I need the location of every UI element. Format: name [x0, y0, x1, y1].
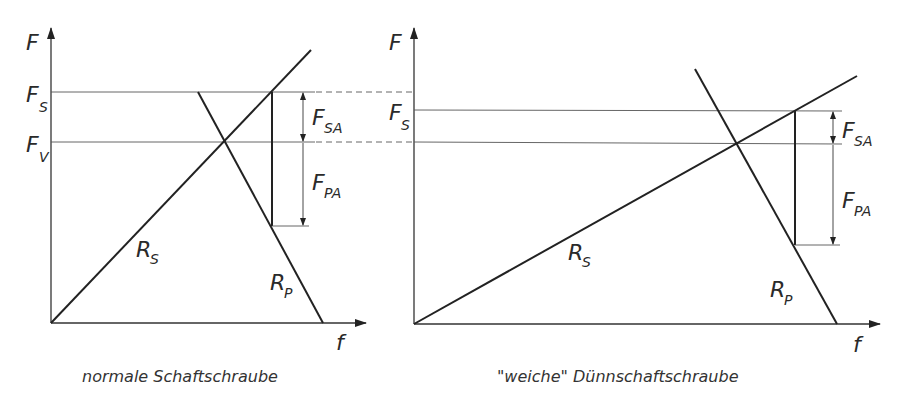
right-fv-level-line: [414, 142, 842, 144]
svg-text:P: P: [284, 285, 293, 301]
svg-text:PA: PA: [324, 185, 341, 201]
right-rp-label: R P: [770, 277, 793, 308]
right-rs-label: R S: [568, 240, 591, 270]
right-rp-line: [695, 69, 837, 324]
right-fsa-label: F SA: [842, 118, 872, 149]
right-y-axis-label: F: [389, 30, 402, 55]
svg-text:F: F: [26, 132, 39, 157]
right-chart: F f F S R S R P F SA F PA "weiche" Dünns…: [389, 28, 880, 386]
left-fpa-label: F PA: [312, 170, 341, 201]
svg-text:PA: PA: [854, 203, 871, 219]
svg-text:S: S: [150, 251, 159, 267]
svg-text:SA: SA: [854, 133, 872, 149]
left-x-axis-label: f: [336, 330, 347, 355]
svg-text:SA: SA: [324, 120, 342, 136]
svg-text:R: R: [568, 240, 583, 265]
svg-text:R: R: [136, 237, 151, 262]
left-chart: F f F S F V R S R P F SA F PA normale Sc…: [26, 28, 366, 386]
svg-text:P: P: [784, 292, 793, 308]
right-fs-label: F S: [389, 100, 410, 133]
right-fpa-label: F PA: [842, 188, 871, 219]
right-x-axis-label: f: [853, 332, 864, 357]
svg-text:F: F: [26, 82, 39, 107]
svg-text:V: V: [39, 149, 50, 165]
left-y-axis-label: F: [26, 30, 39, 55]
svg-text:S: S: [39, 99, 48, 115]
left-fsa-label: F SA: [312, 105, 342, 136]
left-caption: normale Schaftschraube: [82, 367, 278, 386]
right-rs-line: [414, 76, 857, 324]
right-fs-level-line: [414, 110, 842, 111]
bolt-joint-force-diagram: F f F S F V R S R P F SA F PA normale Sc…: [0, 0, 900, 405]
svg-text:S: S: [401, 117, 410, 133]
svg-text:S: S: [582, 254, 591, 270]
left-fv-label: F V: [26, 132, 50, 165]
left-fs-label: F S: [26, 82, 48, 115]
svg-text:R: R: [270, 270, 285, 295]
right-caption: "weiche" Dünnschaftschraube: [497, 367, 739, 386]
left-rp-label: R P: [270, 270, 293, 301]
left-rs-label: R S: [136, 237, 159, 267]
left-rp-line: [198, 92, 323, 323]
svg-text:R: R: [770, 277, 785, 302]
